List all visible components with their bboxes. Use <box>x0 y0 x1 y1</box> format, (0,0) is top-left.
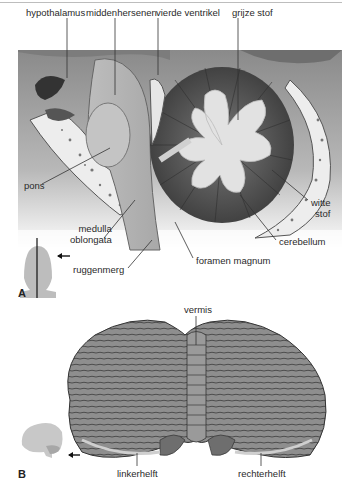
label-middenhersenen: middenhersenen <box>86 7 157 18</box>
label-rechterhelft: rechterhelft <box>238 468 286 479</box>
panel-letter-b: B <box>18 468 26 480</box>
label-grijze-stof: grijze stof <box>232 7 273 18</box>
label-vierde-ventrikel: vierde ventrikel <box>156 7 220 18</box>
cerebellum-posterior-view-b <box>68 320 326 457</box>
label-hypothalamus: hypothalamus <box>26 7 85 18</box>
label-linkerhelft: linkerhelft <box>117 468 158 479</box>
label-witte-line2: stof <box>311 208 331 219</box>
label-medulla-oblongata: medulla oblongata <box>70 223 112 245</box>
label-cerebellum: cerebellum <box>279 236 325 247</box>
panel-letter-a: A <box>18 287 26 299</box>
label-vermis: vermis <box>184 304 212 315</box>
label-pons: pons <box>24 180 45 191</box>
label-witte-line1: witte <box>311 197 331 208</box>
label-witte-stof: witte stof <box>311 197 331 219</box>
anatomy-illustration <box>0 0 352 502</box>
label-medulla-line1: medulla <box>70 223 112 234</box>
label-medulla-line2: oblongata <box>70 234 112 245</box>
label-ruggenmerg: ruggenmerg <box>73 264 124 275</box>
label-foramen-magnum: foramen magnum <box>196 255 270 266</box>
